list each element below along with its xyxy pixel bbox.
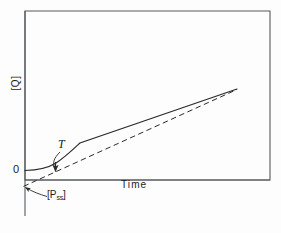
progress-curve — [25, 89, 237, 171]
tau-annotation-label: T — [58, 138, 65, 150]
plot-frame — [25, 11, 270, 180]
pss-bracket-close: ] — [63, 189, 66, 200]
x-axis-label: Time — [121, 180, 147, 190]
y-axis-label: [Q] — [11, 70, 21, 96]
tau-leader-line — [54, 152, 60, 168]
pss-leader-arrow — [26, 188, 48, 197]
plot-canvas — [0, 0, 281, 233]
pss-annotation-label: [Pss] — [47, 190, 66, 201]
origin-label: 0 — [13, 164, 19, 175]
steady-state-asymptote-line — [24, 90, 238, 187]
kinetics-lag-figure: Time [Q] 0 T [Pss] — [0, 0, 281, 233]
